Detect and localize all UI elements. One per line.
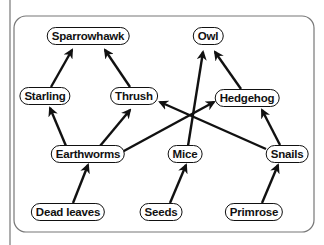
arrow-thrush-to-sparrowhawk: [105, 50, 130, 87]
node-snails: Snails: [266, 145, 309, 163]
arrow-seeds-to-mice: [170, 165, 186, 203]
node-dead-leaves: Dead leaves: [31, 203, 105, 221]
arrow-primrose-to-snails: [262, 165, 278, 203]
node-starling: Starling: [19, 87, 70, 105]
arrow-dead-leaves-to-earthworms: [73, 165, 88, 203]
node-primrose: Primrose: [225, 203, 283, 221]
arrow-earthworms-to-starling: [50, 108, 66, 146]
arrow-snails-to-thrush: [160, 102, 266, 149]
node-seeds: Seeds: [140, 203, 183, 221]
node-hedgehog: Hedgehog: [215, 89, 280, 107]
node-mice: Mice: [168, 145, 203, 163]
arrow-snails-to-hedgehog: [262, 110, 280, 145]
arrow-starling-to-sparrowhawk: [51, 50, 72, 87]
arrow-group: [50, 50, 280, 203]
arrow-earthworms-to-thrush: [100, 110, 130, 146]
food-web-diagram: SparrowhawkOwlStarlingThrushHedgehogEart…: [0, 0, 324, 245]
node-earthworms: Earthworms: [51, 145, 125, 163]
arrow-hedgehog-to-owl: [215, 52, 241, 89]
node-sparrowhawk: Sparrowhawk: [47, 27, 130, 45]
arrow-mice-to-owl: [188, 52, 203, 146]
node-thrush: Thrush: [110, 87, 158, 105]
node-owl: Owl: [193, 27, 224, 45]
arrow-earthworms-to-hedgehog: [122, 102, 214, 152]
